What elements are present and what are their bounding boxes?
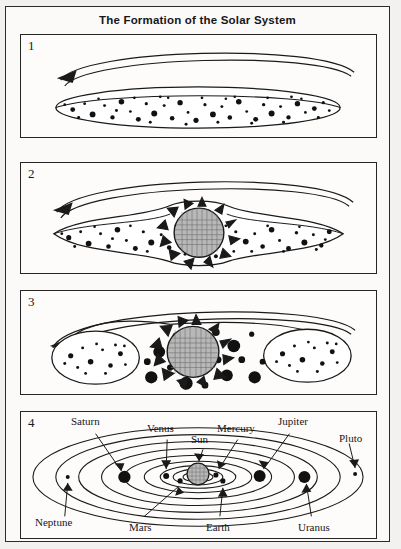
panel-stage-2: 2 <box>20 162 377 274</box>
page-title: The Formation of the Solar System <box>6 14 389 26</box>
rotation-arc-inner <box>65 60 351 86</box>
planet-label-uranus: Uranus <box>298 521 330 533</box>
planet-mercury <box>213 472 218 477</box>
planet-label-venus: Venus <box>147 422 174 434</box>
nebula-disk-ellipse <box>56 87 340 128</box>
planet-label-mercury: Mercury <box>217 422 255 434</box>
planet-mars <box>178 478 183 483</box>
planet-bodies <box>66 470 357 483</box>
rotation-arrowhead <box>53 202 73 215</box>
planet-label-pluto: Pluto <box>339 432 362 444</box>
planet-label-mars: Mars <box>129 521 152 533</box>
panel-3-graphic <box>21 291 376 394</box>
panel-stage-4: 4 <box>20 411 377 539</box>
outer-blob-right <box>264 329 352 382</box>
panel-4-graphic <box>21 412 376 538</box>
panel-2-graphic <box>21 163 376 273</box>
diagram-page: The Formation of the Solar System 1 <box>5 6 390 542</box>
outer-blob-left <box>52 331 140 384</box>
sun-core <box>187 463 209 485</box>
sun-core <box>174 208 224 257</box>
leader-lines <box>65 434 355 517</box>
sun-body <box>187 463 209 485</box>
planet-label-earth: Earth <box>206 521 230 533</box>
planet-label-jupiter: Jupiter <box>278 415 308 427</box>
planet-label-sun: Sun <box>191 433 208 445</box>
planet-saturn <box>118 471 130 483</box>
planet-venus <box>163 473 169 479</box>
panel-stage-1: 1 <box>20 34 377 138</box>
rotation-arc-outer <box>61 53 354 80</box>
planet-label-saturn: Saturn <box>71 415 100 427</box>
planet-pluto <box>353 472 357 476</box>
planet-jupiter <box>254 470 266 482</box>
planet-label-neptune: Neptune <box>35 516 72 528</box>
panel-stage-3: 3 <box>20 290 377 395</box>
rotation-arrowhead <box>57 70 77 83</box>
planet-earth <box>220 478 225 483</box>
leader-jupiter <box>264 434 290 469</box>
planet-neptune <box>66 475 70 479</box>
planet-uranus <box>298 471 310 483</box>
panel-1-graphic <box>21 35 376 137</box>
